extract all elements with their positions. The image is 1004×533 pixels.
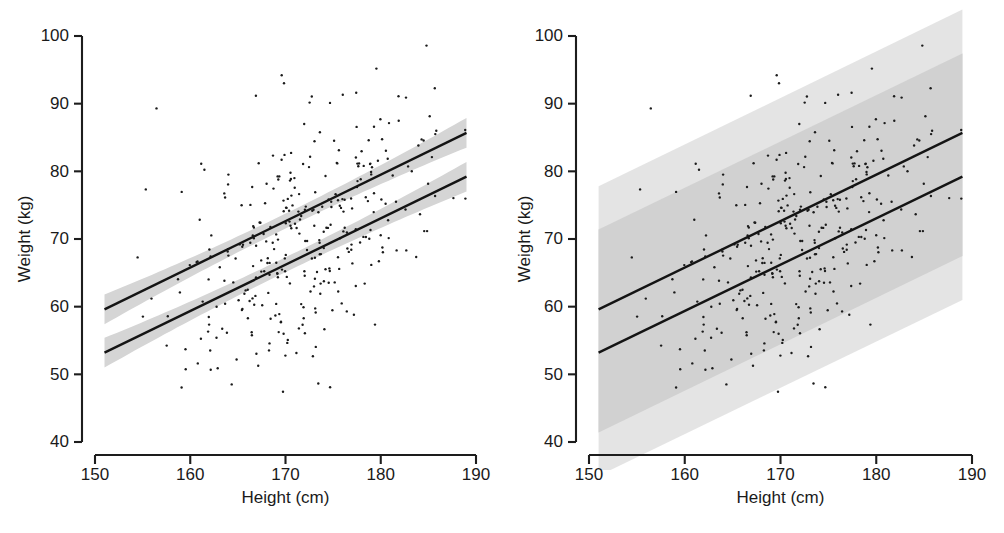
data-point — [247, 289, 249, 291]
data-point — [852, 180, 854, 182]
data-point — [208, 323, 210, 325]
data-point — [778, 154, 780, 156]
panel-right-svg: 405060708090100 150160170180190 Height (… — [502, 0, 1004, 533]
data-point — [268, 349, 270, 351]
data-point — [278, 331, 280, 333]
data-point — [368, 238, 370, 240]
data-point — [318, 239, 320, 241]
data-point — [671, 278, 673, 280]
data-point — [280, 159, 282, 161]
data-point — [334, 281, 336, 283]
data-point — [272, 154, 274, 156]
data-point — [282, 333, 284, 335]
data-point — [258, 221, 260, 223]
data-point — [314, 191, 316, 193]
data-point — [776, 268, 778, 270]
data-point — [255, 245, 257, 247]
data-point — [368, 139, 370, 141]
data-point — [297, 210, 299, 212]
data-point — [788, 177, 790, 179]
data-point — [420, 138, 422, 140]
panel-left-y-axis: 405060708090100 — [41, 26, 82, 451]
data-point — [704, 369, 706, 371]
data-point — [155, 107, 157, 109]
data-point — [392, 174, 394, 176]
data-point — [921, 44, 923, 46]
data-point — [737, 244, 739, 246]
data-point — [799, 275, 801, 277]
data-point — [679, 348, 681, 350]
data-point — [267, 257, 269, 259]
data-point — [313, 285, 315, 287]
data-point — [199, 219, 201, 221]
data-point — [850, 156, 852, 158]
data-point — [880, 203, 882, 205]
x-tick-label: 180 — [367, 465, 395, 484]
data-point — [693, 219, 695, 221]
data-point — [846, 207, 848, 209]
data-point — [311, 257, 313, 259]
data-point — [253, 304, 255, 306]
data-point — [232, 281, 234, 283]
data-point — [284, 257, 286, 259]
data-point — [288, 210, 290, 212]
data-point — [210, 369, 212, 371]
data-point — [779, 257, 781, 259]
data-point — [798, 123, 800, 125]
data-point — [702, 316, 704, 318]
data-point — [753, 221, 755, 223]
data-point — [302, 306, 304, 308]
data-point — [741, 289, 743, 291]
data-point — [703, 323, 705, 325]
data-point — [903, 165, 905, 167]
data-point — [365, 236, 367, 238]
data-point — [252, 265, 254, 267]
data-point — [833, 268, 835, 270]
y-tick-label: 60 — [50, 297, 69, 316]
data-point — [427, 183, 429, 185]
data-point — [275, 233, 277, 235]
data-point — [200, 163, 202, 165]
data-point — [868, 126, 870, 128]
data-point — [355, 126, 357, 128]
data-point — [702, 330, 704, 332]
data-point — [784, 172, 786, 174]
data-point — [150, 297, 152, 299]
data-point — [265, 240, 267, 242]
data-point — [395, 249, 397, 251]
data-point — [283, 210, 285, 212]
data-point — [876, 198, 878, 200]
data-point — [260, 259, 262, 261]
data-point — [237, 299, 239, 301]
data-point — [298, 193, 300, 195]
data-point — [803, 166, 805, 168]
data-point — [801, 249, 803, 251]
data-point — [900, 96, 902, 98]
data-point — [679, 368, 681, 370]
data-point — [784, 225, 786, 227]
data-point — [312, 355, 314, 357]
x-tick-label: 190 — [462, 465, 490, 484]
data-point — [718, 192, 720, 194]
data-point — [275, 262, 277, 264]
data-point — [329, 224, 331, 226]
data-point — [223, 280, 225, 282]
data-point — [373, 126, 375, 128]
data-point — [384, 203, 386, 205]
data-point — [340, 207, 342, 209]
data-point — [301, 324, 303, 326]
data-point — [208, 248, 210, 250]
data-point — [832, 290, 834, 292]
data-point — [742, 317, 744, 319]
data-point — [832, 199, 834, 201]
data-point — [342, 210, 344, 212]
data-point — [871, 67, 873, 69]
data-point — [710, 337, 712, 339]
data-point — [255, 353, 257, 355]
data-point — [887, 174, 889, 176]
data-point — [770, 233, 772, 235]
data-point — [810, 311, 812, 313]
y-tick-label: 70 — [544, 229, 563, 248]
data-point — [893, 120, 895, 122]
data-point — [771, 273, 773, 275]
